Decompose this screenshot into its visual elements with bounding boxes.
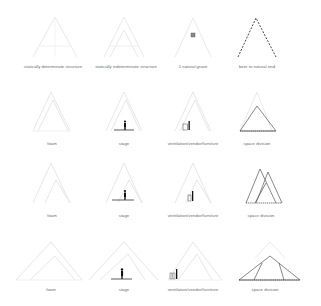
cell-r1c4-natural-end — [238, 18, 276, 57]
label-r2c4: space division — [243, 141, 270, 146]
label-r2c2: stage — [119, 141, 130, 146]
cell-r2c3-furniture — [175, 92, 211, 131]
person-icon — [124, 190, 126, 200]
label-r1c3: 1 natural grave — [179, 64, 208, 69]
label-r3c2: stage — [119, 213, 130, 218]
label-r3c1: foam — [47, 213, 57, 218]
label-r2c3: ventilation/vendor/furniture — [168, 141, 219, 146]
label-r3c4: space division — [247, 213, 274, 218]
cell-r3c1-foam — [33, 163, 70, 203]
cell-r1c3-natural-grave — [175, 18, 211, 57]
cell-r3c3-furniture — [175, 163, 211, 203]
diagram-canvas — [0, 0, 321, 306]
cell-r2c4-space-division — [240, 92, 276, 131]
label-r2c1: foam — [47, 141, 57, 146]
label-r3c3: ventilation/vendor/furniture — [168, 213, 219, 218]
label-r4c3: ventilation/vendor/furniture — [168, 287, 219, 292]
label-r1c4: beer to natural end — [239, 64, 275, 69]
cell-r3c4-space-division — [246, 169, 282, 203]
label-r4c2: stage — [119, 287, 130, 292]
vendor-post-icon — [189, 121, 190, 130]
label-r4c4: space division — [251, 287, 278, 292]
cell-r3c2-stage — [106, 163, 142, 203]
person-icon — [121, 268, 123, 279]
cell-r2c1-foam — [33, 92, 70, 131]
label-r4c1: foam — [46, 287, 56, 292]
cell-r4c4-space-division — [239, 242, 300, 280]
cell-r4c2-stage — [89, 242, 158, 280]
vendor-box-icon — [183, 124, 188, 130]
vendor-post-icon — [176, 269, 177, 279]
cell-r1c1-determinate — [33, 17, 77, 57]
label-r1c1: statically determinate structure — [24, 64, 82, 69]
cell-r4c1-foam — [16, 242, 82, 280]
cell-r1c2-indeterminate — [104, 17, 144, 57]
vendor-post-icon — [192, 191, 193, 201]
grave-marker-icon — [191, 33, 195, 37]
cell-r4c3-furniture — [168, 242, 222, 280]
vendor-box-icon — [173, 273, 175, 279]
person-icon — [124, 120, 126, 130]
cell-r2c2-stage — [106, 92, 142, 131]
label-r1c2: statically indeterminate structure — [95, 64, 157, 69]
